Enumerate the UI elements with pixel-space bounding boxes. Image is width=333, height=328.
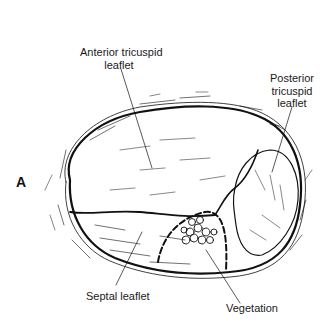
annulus-outline <box>69 106 301 273</box>
label-line: leaflet <box>80 59 158 72</box>
label-line: tricuspid <box>266 85 318 98</box>
posterior-leaflet <box>233 150 298 255</box>
leader-septal <box>116 232 142 285</box>
label-line: Anterior tricuspid <box>80 46 158 59</box>
tricuspid-valve-illustration <box>0 0 333 328</box>
leader-anterior <box>121 69 152 168</box>
label-anterior-tricuspid-leaflet: Anterior tricuspid leaflet <box>80 46 158 71</box>
label-posterior-tricuspid-leaflet: Posterior tricuspid leaflet <box>266 72 318 110</box>
vegetation-outline <box>158 212 226 270</box>
label-vegetation: Vegetation <box>226 302 278 315</box>
leader-posterior <box>272 107 292 172</box>
label-septal-leaflet: Septal leaflet <box>86 290 150 303</box>
panel-letter: A <box>16 174 26 190</box>
label-line: Posterior <box>266 72 318 85</box>
vegetation-mass <box>181 217 217 245</box>
label-line: leaflet <box>266 97 318 110</box>
